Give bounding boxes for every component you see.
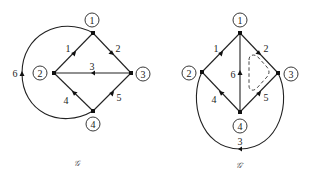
node-label-2: 2 [38, 68, 43, 79]
edge-label-3: 3 [238, 136, 243, 147]
edge-label-3: 3 [90, 61, 95, 72]
edge-label-2: 2 [264, 43, 269, 54]
node-label-1: 1 [90, 15, 95, 26]
edge-label-1: 1 [214, 43, 219, 54]
edge-label-5: 5 [117, 92, 122, 103]
vertex-2 [52, 71, 56, 75]
edge-label-6: 6 [13, 68, 18, 79]
node-label-4: 4 [91, 119, 96, 130]
vertex-4 [238, 110, 242, 114]
node-label-4: 4 [238, 121, 243, 132]
graph-caption: 𝒢′ [236, 161, 244, 170]
edge-label-2: 2 [116, 43, 121, 54]
graph-diagrams: 1 2 3 4 1 2 3 4 5 6 𝒢 [0, 0, 310, 183]
edge-label-4: 4 [212, 94, 217, 105]
arrow-icon [256, 89, 263, 96]
vertex-1 [238, 31, 242, 35]
vertex-2 [200, 70, 204, 74]
arrow-icon [218, 49, 225, 56]
graph-g-prime: 1 2 3 4 1 2 3 4 5 6 𝒢′ [182, 13, 298, 170]
vertex-1 [91, 31, 95, 35]
vertex-4 [91, 109, 95, 113]
node-label-3: 3 [141, 69, 146, 80]
edge-label-4: 4 [64, 95, 69, 106]
edge-label-1: 1 [66, 43, 71, 54]
arrow-icon [71, 49, 78, 56]
node-label-1: 1 [238, 15, 243, 26]
edge-label-5: 5 [264, 92, 269, 103]
arrow-icon [20, 71, 25, 76]
graph-g: 1 2 3 4 1 2 3 4 5 6 𝒢 [13, 13, 151, 168]
vertex-3 [276, 71, 280, 75]
arrow-icon [238, 70, 243, 75]
node-label-2: 2 [187, 68, 192, 79]
node-label-3: 3 [289, 69, 294, 80]
edge-label-6: 6 [231, 69, 236, 80]
arrow-icon [238, 147, 242, 152]
vertex-3 [129, 71, 133, 75]
graph-caption: 𝒢 [74, 159, 81, 168]
